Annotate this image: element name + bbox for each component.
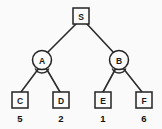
node-e[interactable]: E <box>95 92 111 108</box>
leaf-value-d: 2 <box>58 113 63 124</box>
leaf-value-e: 1 <box>100 113 106 124</box>
node-s[interactable]: S <box>73 8 89 24</box>
edge-s-to-a <box>47 24 76 53</box>
node-d-label: D <box>58 96 64 106</box>
node-e-label: E <box>100 96 106 106</box>
node-c-label: C <box>17 96 23 106</box>
tree-diagram-canvas: S A B C 5 D 2 E 1 <box>0 0 162 129</box>
node-c[interactable]: C <box>12 92 28 108</box>
node-b[interactable]: B <box>110 51 129 70</box>
tree-diagram-svg: S A B C 5 D 2 E 1 <box>0 0 162 129</box>
edge-b-to-f <box>123 68 142 92</box>
leaf-value-c: 5 <box>17 113 23 124</box>
node-b-label: B <box>116 56 122 66</box>
edge-a-to-c <box>21 68 39 92</box>
node-f-label: F <box>141 96 146 106</box>
leaf-value-f: 6 <box>141 113 146 124</box>
edge-a-to-d <box>46 68 60 92</box>
edge-s-to-b <box>87 24 114 53</box>
node-a-label: A <box>39 56 45 66</box>
node-s-label: S <box>78 12 84 22</box>
node-f[interactable]: F <box>136 92 152 108</box>
node-a[interactable]: A <box>33 51 52 70</box>
node-d[interactable]: D <box>53 92 69 108</box>
